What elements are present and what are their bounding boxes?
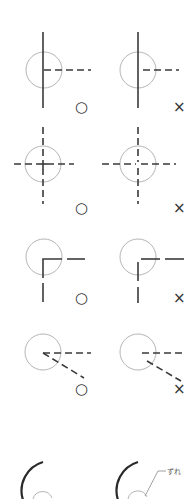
incorrect-mark: × xyxy=(173,199,186,217)
correct-mark: ○ xyxy=(75,199,88,217)
row4-incorrect-figure xyxy=(120,334,185,381)
row1-incorrect-figure xyxy=(120,32,179,108)
bottom-offset-arc xyxy=(117,462,166,499)
row4-correct-figure xyxy=(25,334,91,378)
incorrect-mark: × xyxy=(173,380,186,398)
incorrect-mark: × xyxy=(173,98,186,116)
row2-incorrect-figure xyxy=(102,127,176,204)
callout-leader-line xyxy=(145,471,166,496)
correct-mark: ○ xyxy=(75,98,88,116)
correct-mark: ○ xyxy=(75,380,88,398)
centerline-diagram xyxy=(0,0,189,499)
row2-correct-figure xyxy=(14,127,74,204)
offset-callout-label: ずれ xyxy=(167,466,181,476)
row1-correct-figure xyxy=(26,32,91,108)
incorrect-mark: × xyxy=(173,289,186,307)
correct-mark: ○ xyxy=(75,289,88,307)
bottom-correct-arc xyxy=(22,462,52,499)
